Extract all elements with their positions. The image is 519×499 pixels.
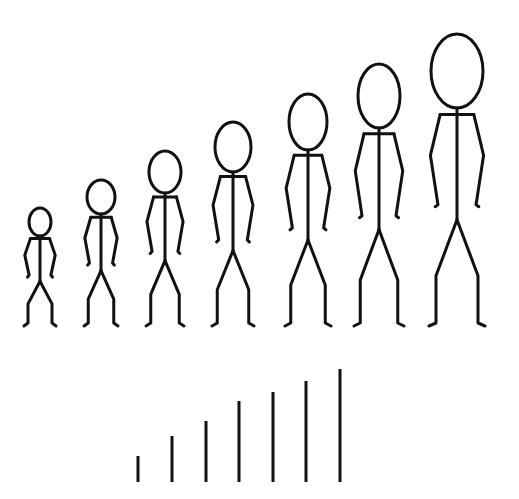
left-leg bbox=[285, 240, 308, 326]
stick-figure-diagram bbox=[0, 0, 519, 499]
right-leg bbox=[165, 261, 184, 326]
head bbox=[358, 64, 400, 128]
stick-figure bbox=[84, 180, 118, 326]
left-arm bbox=[85, 217, 91, 265]
right-leg bbox=[379, 229, 404, 326]
right-arm bbox=[111, 217, 117, 265]
stick-figures-group bbox=[24, 34, 485, 326]
right-arm bbox=[394, 134, 403, 218]
left-arm bbox=[430, 114, 440, 206]
right-leg bbox=[457, 220, 485, 326]
stick-figure bbox=[354, 64, 404, 326]
stick-figure bbox=[24, 208, 56, 326]
left-leg bbox=[212, 251, 233, 326]
diagram-canvas bbox=[0, 0, 519, 499]
left-arm bbox=[25, 239, 31, 278]
stick-figure bbox=[146, 151, 184, 326]
height-bars-group bbox=[138, 369, 340, 482]
right-leg bbox=[101, 271, 118, 326]
left-arm bbox=[147, 197, 154, 254]
stick-figure bbox=[429, 34, 485, 326]
right-leg bbox=[308, 240, 331, 326]
left-leg bbox=[146, 261, 165, 326]
left-leg bbox=[84, 271, 101, 326]
left-arm bbox=[355, 134, 364, 218]
left-leg bbox=[24, 281, 40, 326]
right-leg bbox=[233, 251, 254, 326]
left-leg bbox=[354, 229, 379, 326]
head bbox=[87, 180, 115, 214]
right-arm bbox=[322, 155, 330, 230]
left-arm bbox=[213, 177, 220, 242]
right-leg bbox=[40, 281, 56, 326]
right-arm bbox=[246, 177, 253, 242]
stick-figure bbox=[212, 122, 254, 326]
head bbox=[215, 122, 251, 172]
head bbox=[431, 34, 483, 108]
left-leg bbox=[429, 220, 457, 326]
left-arm bbox=[286, 155, 294, 230]
head bbox=[289, 94, 327, 150]
head bbox=[149, 151, 181, 193]
right-arm bbox=[50, 239, 56, 278]
head bbox=[29, 208, 51, 236]
right-arm bbox=[474, 114, 484, 206]
right-arm bbox=[176, 197, 183, 254]
stick-figure bbox=[285, 94, 331, 326]
